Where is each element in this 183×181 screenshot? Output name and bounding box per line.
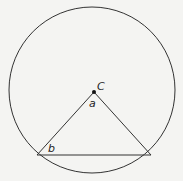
angle-a-label: a [89, 97, 96, 110]
center-point [92, 90, 96, 94]
angle-b-label: b [48, 142, 55, 155]
circle [9, 7, 175, 173]
geometry-diagram: C a b [0, 0, 183, 181]
center-label: C [97, 80, 105, 93]
radius-left [37, 92, 94, 155]
radius-right [94, 92, 151, 155]
